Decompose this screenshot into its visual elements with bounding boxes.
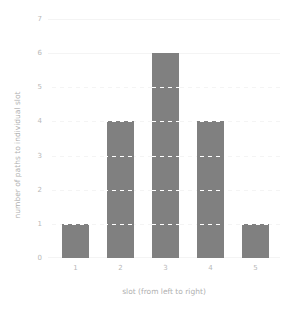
bar-slot-4[interactable] (197, 121, 224, 258)
y-tick-label-3: 3 (38, 152, 42, 159)
y-tick-label-6: 6 (38, 50, 42, 57)
y-tick-label-1: 1 (38, 220, 42, 227)
x-tick-label-1: 1 (73, 265, 77, 272)
bar-slot-1[interactable] (62, 224, 89, 258)
y-tick-label-5: 5 (38, 84, 42, 91)
x-tick-label-3: 3 (163, 265, 167, 272)
bar-slot-3[interactable] (152, 53, 179, 258)
x-tick-label-2: 2 (118, 265, 122, 272)
y-tick-label-2: 2 (38, 186, 42, 193)
y-tick-label-0: 0 (38, 255, 42, 262)
bar-slot-5[interactable] (242, 224, 269, 258)
x-tick-label-5: 5 (253, 265, 257, 272)
plot-area: 7 6 5 4 3 2 1 0 1 2 3 4 5 (48, 19, 280, 258)
y-axis-label: number of paths to individual slot (14, 91, 22, 218)
bar-chart-figure: number of paths to individual slot 7 6 5… (0, 0, 289, 309)
bar-group (48, 19, 280, 258)
x-axis-label: slot (from left to right) (122, 288, 206, 296)
y-tick-label-4: 4 (38, 118, 42, 125)
y-tick-label-7: 7 (38, 16, 42, 23)
bar-slot-2[interactable] (107, 121, 134, 258)
x-tick-label-4: 4 (208, 265, 212, 272)
